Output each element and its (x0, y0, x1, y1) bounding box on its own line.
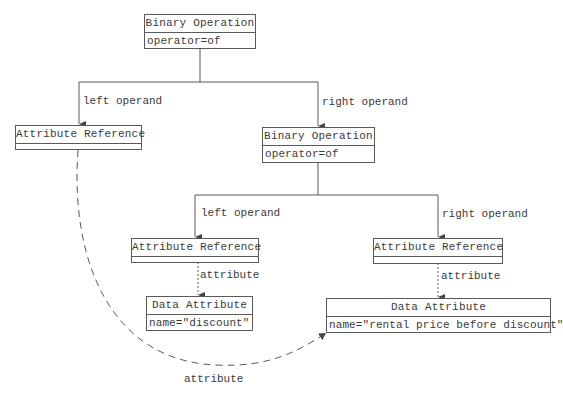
node-title: Attribute Reference (16, 126, 141, 144)
edge-label-root-right-operand: right operand (322, 96, 408, 109)
edge-label-curve-attribute: attribute (184, 373, 243, 386)
edge-label-op-left-operand: left operand (201, 207, 280, 220)
node-attribute-reference-left[interactable]: Attribute Reference (15, 125, 142, 150)
edge-label-op-right-operand: right operand (442, 208, 528, 221)
node-data-attribute-discount[interactable]: Data Attribute name="discount" (146, 296, 253, 331)
edge-label-right-attribute: attribute (441, 270, 500, 283)
edge-label-root-left-operand: left operand (83, 95, 162, 108)
node-binary-operation-right[interactable]: Binary Operation operator=of (262, 127, 375, 163)
node-title: Attribute Reference (132, 239, 258, 257)
node-data-attribute-rental-price[interactable]: Data Attribute name="rental price before… (326, 298, 551, 333)
node-attribute-reference-middle[interactable]: Attribute Reference (131, 238, 259, 263)
node-title: Binary Operation (263, 128, 374, 146)
node-binary-operation-root[interactable]: Binary Operation operator=of (144, 14, 256, 49)
node-attribute-reference-right[interactable]: Attribute Reference (373, 238, 503, 264)
node-attribute: operator=of (263, 146, 374, 162)
node-title: Binary Operation (145, 15, 255, 33)
node-attribute (16, 144, 141, 149)
node-title: Data Attribute (327, 299, 550, 317)
connector-lines (0, 0, 563, 397)
node-attribute (132, 257, 258, 262)
edge-root-operands (79, 48, 318, 126)
edge-label-mid-attribute: attribute (200, 269, 259, 282)
node-attribute: name="discount" (147, 315, 252, 331)
node-attribute: operator=of (145, 33, 255, 49)
node-title: Data Attribute (147, 297, 252, 315)
edge-op-operands (195, 162, 438, 237)
node-attribute (374, 257, 502, 262)
node-attribute: name="rental price before discount" (327, 317, 550, 333)
node-title: Attribute Reference (374, 239, 502, 257)
